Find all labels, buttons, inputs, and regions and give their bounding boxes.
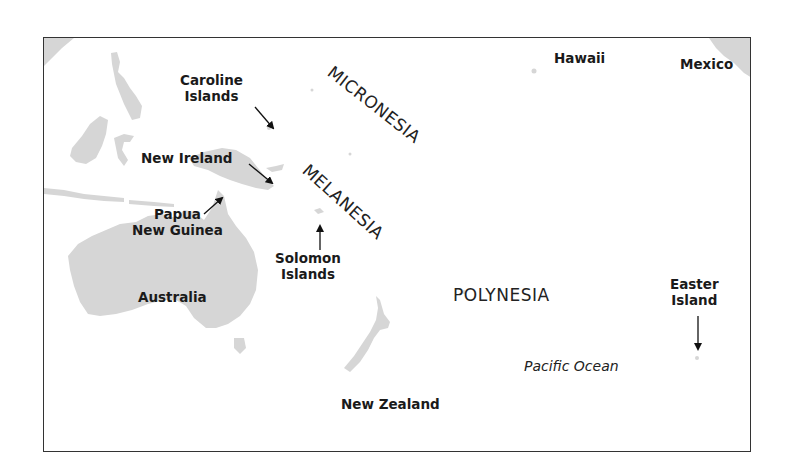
- island-dot: [311, 89, 314, 92]
- sulawesi-landmass: [114, 134, 134, 166]
- label-hawaii: Hawaii: [554, 50, 605, 66]
- label-mexico: Mexico: [680, 56, 733, 72]
- tasmania-landmass: [234, 338, 246, 354]
- label-australia: Australia: [138, 289, 207, 305]
- label-caroline-islands: Caroline Islands: [180, 72, 243, 105]
- label-line: Caroline: [180, 72, 243, 88]
- island-dot: [349, 153, 352, 156]
- label-line: Papua: [132, 206, 223, 222]
- landmass-layer: [44, 38, 751, 452]
- region-polynesia: POLYNESIA: [453, 285, 550, 306]
- label-papua-new-guinea: Papua New Guinea: [132, 206, 223, 239]
- caroline-islands-dot: [267, 126, 271, 130]
- philippines-landmass: [111, 52, 142, 120]
- label-easter-island: Easter Island: [670, 276, 719, 309]
- java-landmass: [44, 188, 124, 202]
- label-line: Easter: [670, 276, 719, 292]
- easter-island-dot: [695, 356, 699, 360]
- label-new-zealand: New Zealand: [341, 396, 440, 412]
- label-solomon-islands: Solomon Islands: [275, 250, 341, 283]
- label-line: Islands: [180, 88, 243, 104]
- new-zealand-landmass: [344, 296, 390, 372]
- new-ireland-landmass: [266, 164, 284, 172]
- label-line: Island: [670, 292, 719, 308]
- borneo-landmass: [70, 116, 108, 164]
- hawaii-dot: [532, 69, 537, 74]
- label-pacific-ocean: Pacific Ocean: [524, 358, 619, 375]
- label-line: New Guinea: [132, 222, 223, 238]
- map-frame: Caroline Islands New Ireland Papua New G…: [43, 37, 751, 452]
- label-new-ireland: New Ireland: [141, 150, 232, 166]
- label-line: Islands: [275, 266, 341, 282]
- solomon-islands-landmass: [314, 208, 324, 214]
- label-line: Solomon: [275, 250, 341, 266]
- asia-landmass: [44, 38, 74, 66]
